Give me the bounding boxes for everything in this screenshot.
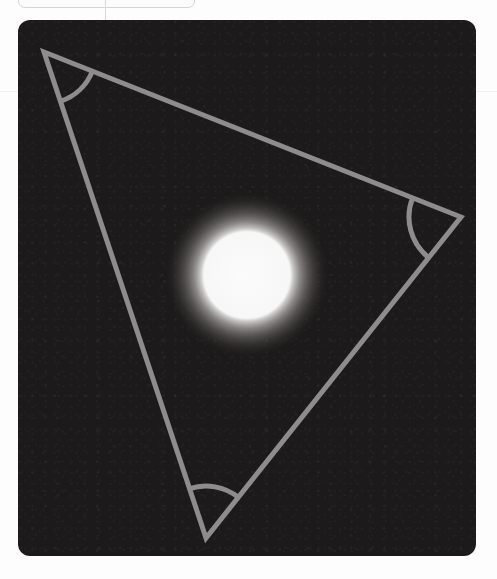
- geometry-figure: [18, 20, 476, 556]
- cropped-top-container[interactable]: [18, 0, 195, 8]
- page-stage: [0, 0, 497, 579]
- angle-arc-right: [409, 198, 429, 258]
- geometry-canvas-panel: [18, 20, 476, 556]
- glowing-circle: [164, 192, 330, 358]
- angle-arc-top-left: [60, 71, 92, 101]
- angle-arc-bottom: [190, 486, 239, 497]
